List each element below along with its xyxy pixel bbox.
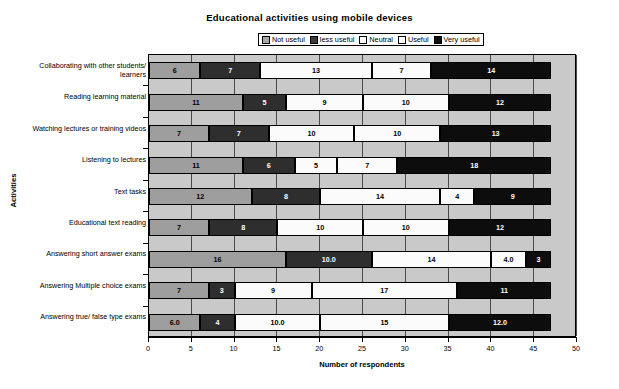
x-axis-tick [576,337,577,342]
stacked-bar-row: 7391711 [149,282,551,299]
bar-segment: 12 [449,219,552,236]
bar-value-label: 5 [314,161,318,170]
legend-label: less useful [320,35,354,44]
bar-value-label: 6 [173,66,177,75]
bar-segment: 10 [363,219,449,236]
bar-value-label: 4 [455,192,459,201]
bar-value-label: 7 [228,66,232,75]
bar-value-label: 12 [196,192,204,201]
x-axis-tick-label: 0 [138,344,158,353]
y-axis-tick [143,306,148,307]
bar-value-label: 7 [365,161,369,170]
x-axis-tick [490,337,491,342]
bar-segment: 15 [320,314,448,331]
bar-segment: 9 [235,282,312,299]
bar-segment: 13 [440,125,551,142]
legend-swatch-icon [359,36,367,44]
bar-segment: 3 [209,282,235,299]
bar-segment: 7 [200,62,260,79]
stacked-bar-row: 1281449 [149,188,551,205]
bar-value-label: 9 [271,286,275,295]
bar-segment: 5 [295,157,338,174]
bar-segment: 3 [526,251,552,268]
chart-title: Educational activities using mobile devi… [0,12,619,23]
x-axis-tick [405,337,406,342]
bar-segment: 10 [354,125,440,142]
bar-segment: 11 [457,282,551,299]
y-axis-title: Activities [9,156,18,226]
legend-item: Not useful [262,35,305,44]
y-axis-category-label: Answering Multiple choice exams [14,281,146,290]
bar-segment: 13 [260,62,371,79]
y-axis-tick [143,243,148,244]
bar-value-label: 18 [470,161,478,170]
x-axis-tick [148,337,149,342]
bar-value-label: 9 [511,192,515,201]
bar-value-label: 10 [316,223,324,232]
bar-value-label: 14 [427,255,435,264]
x-axis-tick [234,337,235,342]
legend-swatch-icon [310,36,318,44]
bar-segment: 7 [337,157,397,174]
x-axis-tick-label: 30 [395,344,415,353]
bar-value-label: 15 [380,318,388,327]
bar-value-label: 14 [376,192,384,201]
bar-value-label: 7 [177,286,181,295]
bar-value-label: 4.0 [503,255,513,264]
bar-segment: 14 [320,188,440,205]
bar-value-label: 3 [536,255,540,264]
y-axis-category-label: Answering true/ false type exams [14,312,146,321]
bar-value-label: 7 [177,129,181,138]
bar-segment: 10 [277,219,363,236]
bar-segment: 7 [209,125,269,142]
legend-label: Not useful [272,35,305,44]
bar-segment: 18 [397,157,551,174]
bar-value-label: 12 [496,98,504,107]
stacked-bar-row: 11591012 [149,94,551,111]
bar-value-label: 8 [241,223,245,232]
bar-value-label: 6.0 [170,318,180,327]
chart-legend: Not usefulless usefulNeutralUsefulVery u… [258,33,484,46]
bar-value-label: 9 [322,98,326,107]
bar-segment: 7 [149,125,209,142]
bar-segment: 12 [449,94,552,111]
bar-value-label: 7 [177,223,181,232]
bar-value-label: 10 [402,223,410,232]
legend-label: Very useful [444,35,480,44]
bar-value-label: 16 [213,255,221,264]
bar-segment: 10 [269,125,355,142]
bar-segment: 9 [286,94,363,111]
bar-value-label: 12 [496,223,504,232]
legend-item: less useful [310,35,354,44]
chart-container: Educational activities using mobile devi… [0,0,619,389]
x-axis-tick [362,337,363,342]
bar-value-label: 17 [380,286,388,295]
bar-value-label: 10 [402,98,410,107]
legend-label: Neutral [369,35,393,44]
x-axis-tick-label: 45 [523,344,543,353]
bar-value-label: 10.0 [322,255,336,264]
bar-segment: 8 [252,188,320,205]
bar-segment: 4.0 [491,251,525,268]
bar-value-label: 7 [399,66,403,75]
x-axis-title: Number of respondents [148,360,576,369]
x-axis-tick-label: 15 [266,344,286,353]
stacked-bar-row: 78101012 [149,219,551,236]
bar-value-label: 4 [215,318,219,327]
x-axis-tick-label: 5 [181,344,201,353]
x-axis-tick [533,337,534,342]
bar-segment: 12.0 [449,314,552,331]
bar-segment: 6.0 [149,314,200,331]
bar-value-label: 11 [192,98,200,107]
x-axis-tick-label: 20 [309,344,329,353]
x-axis-tick [448,337,449,342]
bar-segment: 14 [431,62,551,79]
bar-value-label: 6 [267,161,271,170]
bar-segment: 17 [312,282,458,299]
x-axis-tick [319,337,320,342]
legend-swatch-icon [398,36,406,44]
bar-value-label: 11 [500,286,508,295]
bar-value-label: 13 [492,129,500,138]
bar-value-label: 10 [308,129,316,138]
stacked-bar-row: 1610.0144.03 [149,251,551,268]
